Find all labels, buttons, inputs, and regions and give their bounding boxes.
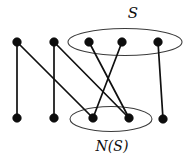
graph-edge <box>158 42 163 119</box>
graph-vertex <box>89 114 98 123</box>
graph-edges <box>17 42 163 119</box>
graph-vertex <box>159 115 168 124</box>
graph-figure: S N(S) <box>0 0 193 161</box>
set-ns-ellipse <box>70 107 152 132</box>
bipartite-graph-canvas: S N(S) <box>0 0 193 161</box>
graph-vertex <box>50 38 59 47</box>
graph-vertex <box>118 38 127 47</box>
graph-vertex <box>13 38 22 47</box>
graph-vertex <box>154 38 163 47</box>
graph-nodes <box>13 38 168 124</box>
set-s-label: S <box>128 4 138 22</box>
graph-edge <box>17 42 93 118</box>
graph-vertex <box>85 38 94 47</box>
graph-vertex <box>125 114 134 123</box>
graph-vertex <box>50 114 59 123</box>
set-ns-label: N(S) <box>95 138 129 154</box>
graph-vertex <box>13 114 22 123</box>
